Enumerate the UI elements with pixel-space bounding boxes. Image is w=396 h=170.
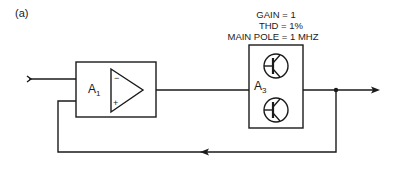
a3-label-text: A xyxy=(254,79,262,93)
figure-label: (a) xyxy=(15,8,28,19)
input-arrow-icon xyxy=(27,76,76,82)
transistor-icon xyxy=(264,98,288,122)
transistor-icon xyxy=(264,54,288,78)
a3-label-subscript: 3 xyxy=(262,86,266,95)
inverting-input-sign: − xyxy=(114,74,119,83)
diagram-wires xyxy=(0,0,396,170)
block-diagram: (a) GAIN = 1 THD = 1% MAIN POLE = 1 MHZ … xyxy=(0,0,396,170)
a1-label: A1 xyxy=(88,84,100,99)
main-pole-spec: MAIN POLE = 1 MHZ xyxy=(213,31,333,42)
non-inverting-input-sign: + xyxy=(113,99,118,108)
feedback-wire xyxy=(58,90,336,152)
gain-spec: GAIN = 1 xyxy=(226,9,326,20)
thd-spec: THD = 1% xyxy=(231,20,331,31)
a1-label-subscript: 1 xyxy=(96,89,100,98)
a1-label-text: A xyxy=(88,82,96,96)
a3-label: A3 xyxy=(254,81,266,96)
junction-dot-icon xyxy=(334,88,338,92)
